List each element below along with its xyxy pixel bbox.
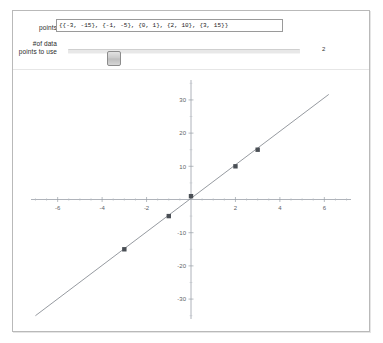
num-points-slider-value: 2 <box>322 46 325 52</box>
num-points-slider-label: #of data points to use <box>15 40 57 56</box>
svg-text:30: 30 <box>179 97 186 103</box>
manipulate-panel: points {{-3, -15}, {-1, -5}, {0, 1}, {2,… <box>12 10 370 332</box>
svg-text:10: 10 <box>179 164 186 170</box>
controls-area: points {{-3, -15}, {-1, -5}, {0, 1}, {2,… <box>13 11 369 69</box>
svg-text:-20: -20 <box>177 263 186 269</box>
svg-text:-2: -2 <box>144 205 150 211</box>
points-field-label: points <box>21 24 57 32</box>
svg-text:6: 6 <box>323 205 327 211</box>
plot-area: -6-4-2246302010-10-20-30 <box>13 70 369 331</box>
num-points-slider-track[interactable] <box>68 49 300 54</box>
svg-text:2: 2 <box>234 205 238 211</box>
svg-text:-6: -6 <box>55 205 61 211</box>
svg-text:-10: -10 <box>177 230 186 236</box>
regression-line <box>35 94 328 315</box>
svg-text:20: 20 <box>179 130 186 136</box>
svg-text:-30: -30 <box>177 296 186 302</box>
points-input[interactable]: {{-3, -15}, {-1, -5}, {0, 1}, {2, 10}, {… <box>56 19 283 32</box>
svg-text:-4: -4 <box>99 205 105 211</box>
scatter-plot: -6-4-2246302010-10-20-30 <box>13 70 369 331</box>
num-points-slider-row: 2 <box>56 41 356 61</box>
num-points-slider-handle[interactable] <box>107 51 121 66</box>
svg-text:4: 4 <box>278 205 282 211</box>
